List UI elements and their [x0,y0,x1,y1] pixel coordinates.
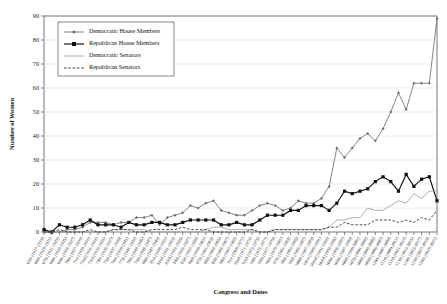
data-point-marker [96,223,99,226]
data-point-marker [335,202,338,205]
data-point-marker [220,223,223,226]
legend-swatch-marker [72,42,76,46]
data-point-marker [428,82,431,85]
data-point-marker [235,221,238,224]
data-point-marker [204,218,207,221]
y-tick-label: 70 [33,60,39,67]
y-tick-label: 90 [33,12,39,19]
data-point-marker [143,223,146,226]
data-point-marker [173,223,176,226]
data-point-marker [158,221,161,224]
legend-item-label-3: Republican Senators [89,63,141,70]
data-point-marker [320,204,323,207]
data-point-marker [89,218,92,221]
data-point-marker [412,185,415,188]
data-point-marker [212,218,215,221]
data-point-marker [405,108,408,111]
data-point-marker [328,209,331,212]
data-point-marker [389,111,392,114]
data-point-marker [397,91,400,94]
data-point-marker [189,218,192,221]
data-point-marker [405,173,408,176]
data-point-marker [250,223,253,226]
data-point-marker [120,221,123,224]
data-point-marker [381,175,384,178]
data-point-marker [150,221,153,224]
data-point-marker [412,82,415,85]
series-republican-house-members [44,174,437,232]
data-point-marker [420,178,423,181]
data-point-marker [274,214,277,217]
data-point-marker [258,218,261,221]
data-point-marker [281,214,284,217]
y-tick-label: 0 [36,228,39,235]
data-point-marker [266,214,269,217]
data-point-marker [73,226,76,229]
data-point-marker [197,218,200,221]
data-point-marker [174,214,177,217]
legend-item-label-0: Democratic House Members [89,27,161,34]
data-point-marker [227,223,230,226]
data-point-marker [289,209,292,212]
y-axis-title: Number of Women [8,98,15,150]
chart-canvas: 010203040506070809065th (1917-1919)66th … [0,0,447,304]
data-point-marker [135,223,138,226]
y-tick-label: 60 [33,84,39,91]
data-point-marker [343,190,346,193]
data-point-marker [127,221,130,224]
data-point-marker [112,223,115,226]
data-point-marker [389,180,392,183]
data-point-marker [436,17,439,20]
legend-item-label-1: Republican House Members [89,39,160,46]
y-tick-label: 80 [33,36,39,43]
y-tick-label: 30 [33,156,39,163]
data-point-marker [420,82,423,85]
data-point-marker [312,204,315,207]
data-point-marker [358,190,361,193]
data-point-marker [58,223,61,226]
data-point-marker [104,223,107,226]
x-axis-title: Congress and Dates [214,288,268,295]
data-point-marker [266,202,269,205]
chart-figure: 010203040506070809065th (1917-1919)66th … [0,0,447,304]
data-point-marker [66,226,69,229]
data-point-marker [297,209,300,212]
series-democratic-senators [44,191,437,232]
data-point-marker [374,180,377,183]
data-point-marker [243,223,246,226]
series-republican-senators [44,210,437,232]
data-point-marker [166,223,169,226]
data-point-marker [81,223,84,226]
legend-item-label-2: Democratic Senators [89,51,141,58]
data-point-marker [304,204,307,207]
data-point-marker [435,199,438,202]
data-point-marker [397,190,400,193]
data-point-marker [428,175,431,178]
y-tick-label: 50 [33,108,39,115]
y-tick-label: 10 [33,204,39,211]
y-tick-label: 40 [33,132,39,139]
data-point-marker [181,221,184,224]
data-point-marker [227,211,230,214]
data-point-marker [143,216,146,219]
data-point-marker [42,228,45,231]
data-point-marker [366,187,369,190]
data-point-marker [119,226,122,229]
data-point-marker [235,214,238,217]
data-point-marker [351,192,354,195]
y-tick-label: 20 [33,180,39,187]
